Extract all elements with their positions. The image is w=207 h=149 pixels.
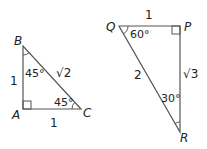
angle-arc-b [23, 53, 30, 56]
triangle-30-60-90: Q P R 1 √3 2 60° 30° [106, 8, 198, 145]
right-angle-marker-a [23, 101, 31, 109]
side-bc-label: √2 [56, 66, 71, 80]
angle-arc-q [124, 26, 129, 34]
side-qp-label: 1 [145, 8, 153, 22]
vertex-a-label: A [11, 108, 20, 122]
triangle-45-45-90: B A C 1 1 √2 45° 45° [10, 34, 92, 130]
angle-c-label: 45° [54, 96, 74, 109]
side-pr-label: √3 [183, 67, 198, 81]
right-angle-marker-p [172, 26, 180, 34]
vertex-r-label: R [180, 131, 188, 145]
triangle-qpr [119, 26, 180, 132]
angle-r-label: 30° [161, 92, 181, 105]
angle-arc-r [175, 122, 180, 124]
side-ac-label: 1 [50, 116, 58, 130]
angle-b-label: 45° [25, 67, 45, 80]
side-ab-label: 1 [10, 74, 18, 88]
diagram: B A C 1 1 √2 45° 45° Q P R 1 √3 2 60° 30… [0, 0, 207, 149]
side-qr-label: 2 [134, 68, 142, 82]
vertex-c-label: C [83, 106, 92, 120]
angle-q-label: 60° [130, 28, 150, 41]
vertex-p-label: P [184, 20, 192, 34]
vertex-b-label: B [14, 34, 22, 48]
vertex-q-label: Q [106, 20, 115, 34]
